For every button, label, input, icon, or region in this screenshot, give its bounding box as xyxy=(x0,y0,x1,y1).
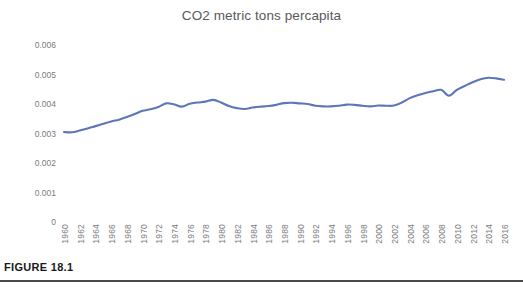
x-axis-tick-label: 1964 xyxy=(91,224,101,244)
x-axis-tick-label: 2010 xyxy=(453,224,463,244)
x-axis-tick-label: 1968 xyxy=(123,224,133,244)
x-axis-tick-label: 1986 xyxy=(264,224,274,244)
y-axis-tick-label: 0 xyxy=(51,217,56,227)
x-axis-tick-label: 1966 xyxy=(107,224,117,244)
x-axis-tick-label: 1998 xyxy=(359,224,369,244)
x-axis-tick-label: 2014 xyxy=(484,224,494,244)
x-axis-tick-label: 2016 xyxy=(500,224,510,244)
x-axis-tick-label: 1980 xyxy=(217,224,227,244)
y-axis-tick-label: 0.004 xyxy=(35,99,56,109)
series-line-co2 xyxy=(64,78,504,133)
x-axis-tick-label: 1992 xyxy=(311,224,321,244)
x-axis-tick-label: 1974 xyxy=(170,224,180,244)
x-axis: 1960196219641966196819701972197419761978… xyxy=(64,224,510,258)
chart-container: CO2 metric tons percapita 0.0060.0050.00… xyxy=(0,0,523,258)
figure-caption: FIGURE 18.1 xyxy=(4,261,73,273)
x-axis-tick-label: 1976 xyxy=(186,224,196,244)
x-axis-tick-label: 1972 xyxy=(154,224,164,244)
x-axis-tick-label: 1984 xyxy=(249,224,259,244)
y-axis-tick-label: 0.006 xyxy=(35,40,56,50)
x-axis-tick-label: 2008 xyxy=(437,224,447,244)
x-axis-tick-label: 2006 xyxy=(421,224,431,244)
x-axis-tick-label: 1996 xyxy=(343,224,353,244)
caption-divider xyxy=(0,280,523,282)
x-axis-tick-label: 1962 xyxy=(76,224,86,244)
x-axis-tick-label: 1990 xyxy=(296,224,306,244)
x-axis-tick-label: 1982 xyxy=(233,224,243,244)
y-axis: 0.0060.0050.0040.0030.0020.0010 xyxy=(0,0,64,258)
y-axis-tick-label: 0.005 xyxy=(35,70,56,80)
x-axis-tick-label: 2000 xyxy=(374,224,384,244)
y-axis-tick-label: 0.003 xyxy=(35,129,56,139)
y-axis-tick-label: 0.002 xyxy=(35,158,56,168)
x-axis-tick-label: 1994 xyxy=(327,224,337,244)
line-chart-svg xyxy=(64,45,504,222)
x-axis-tick-label: 2002 xyxy=(390,224,400,244)
x-axis-tick-label: 1960 xyxy=(60,224,70,244)
x-axis-tick-label: 1970 xyxy=(139,224,149,244)
figure-page: CO2 metric tons percapita 0.0060.0050.00… xyxy=(0,0,523,287)
x-axis-tick-label: 2004 xyxy=(406,224,416,244)
y-axis-tick-label: 0.001 xyxy=(35,188,56,198)
x-axis-tick-label: 2012 xyxy=(469,224,479,244)
x-axis-tick-label: 1978 xyxy=(201,224,211,244)
plot-area xyxy=(64,45,504,222)
chart-title: CO2 metric tons percapita xyxy=(0,8,523,23)
x-axis-tick-label: 1988 xyxy=(280,224,290,244)
